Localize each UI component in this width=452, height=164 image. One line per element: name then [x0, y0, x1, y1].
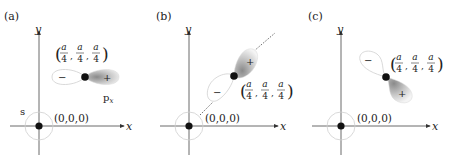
svg-text:,: , — [255, 88, 258, 98]
x-axis-label: x — [432, 120, 439, 133]
svg-text:a: a — [262, 79, 267, 89]
origin-label: (0,0,0) — [357, 112, 392, 124]
atom — [382, 73, 390, 81]
svg-text:a: a — [412, 52, 417, 62]
atom — [81, 73, 89, 81]
s-orbital-label: s — [20, 106, 25, 117]
svg-text:4: 4 — [428, 64, 434, 74]
figure-canvas: (a) y x s (0,0,0) − + px ( a 4 , a 4 — [0, 0, 452, 164]
minus-lobe — [52, 69, 85, 84]
y-axis-label: y — [34, 23, 42, 36]
panel-label: (a) — [4, 10, 19, 23]
plus-sign: + — [398, 88, 406, 99]
plus-lobe — [85, 69, 119, 84]
atom-coordinate-label: ( a 4 , a 4 , a 4 ) — [240, 79, 294, 101]
svg-text:a: a — [246, 79, 251, 89]
origin-label: (0,0,0) — [205, 112, 240, 124]
svg-text:4: 4 — [396, 64, 402, 74]
y-axis-label: y — [184, 23, 192, 36]
svg-text:a: a — [61, 42, 66, 52]
x-axis-label: x — [126, 120, 133, 133]
svg-text:a: a — [428, 52, 433, 62]
svg-text:4: 4 — [77, 54, 83, 64]
panel-a: (a) y x s (0,0,0) − + px ( a 4 , a 4 — [4, 10, 133, 155]
svg-text:,: , — [421, 61, 424, 71]
orbital-label: px — [103, 92, 113, 105]
paren-close: ) — [102, 44, 109, 64]
atom-coordinate-label: ( a 4 , a 4 , a 4 ) — [55, 42, 109, 64]
svg-text:4: 4 — [278, 91, 284, 101]
svg-text:4: 4 — [61, 54, 67, 64]
y-axis-label: y — [336, 23, 344, 36]
direction-guide-line — [254, 33, 275, 51]
atom — [230, 72, 238, 80]
panel-b: (b) y x (0,0,0) − + ( a 4 , a 4 , — [156, 10, 294, 155]
svg-text:): ) — [437, 54, 444, 74]
plus-sign: + — [246, 56, 254, 67]
svg-text:a: a — [396, 52, 401, 62]
x-axis-label: x — [280, 120, 287, 133]
svg-text:,: , — [271, 88, 274, 98]
svg-text:a: a — [278, 79, 283, 89]
svg-text:4: 4 — [246, 91, 252, 101]
panel-label: (c) — [308, 10, 323, 23]
minus-sign: − — [58, 72, 66, 83]
svg-text:): ) — [287, 81, 294, 101]
origin-atom — [337, 122, 344, 129]
origin-atom — [185, 122, 192, 129]
origin-label: (0,0,0) — [54, 112, 89, 124]
panel-c: (c) y x (0,0,0) − + ( a 4 , a 4 , a — [308, 10, 444, 155]
plus-sign: + — [103, 72, 111, 83]
panel-label: (b) — [156, 10, 172, 23]
svg-text:,: , — [405, 61, 408, 71]
origin-atom — [35, 122, 42, 129]
svg-text:4: 4 — [412, 64, 418, 74]
minus-sign: − — [364, 55, 372, 66]
svg-text:,: , — [86, 51, 89, 61]
minus-sign: − — [213, 87, 221, 98]
svg-text:4: 4 — [93, 54, 99, 64]
svg-text:a: a — [77, 42, 82, 52]
svg-text:a: a — [93, 42, 98, 52]
svg-text:4: 4 — [262, 91, 268, 101]
svg-text:,: , — [70, 51, 73, 61]
atom-coordinate-label: ( a 4 , a 4 , a 4 ) — [390, 52, 444, 74]
